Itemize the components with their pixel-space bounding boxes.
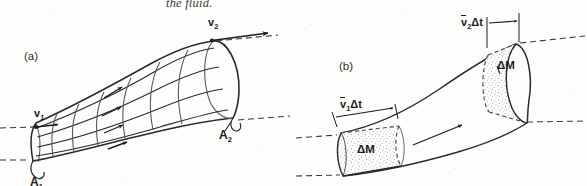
label-area-A2: A2	[219, 129, 232, 144]
label-area-A1-subscript: 1	[39, 182, 43, 186]
panel-b-graphic	[296, 13, 587, 176]
label-velocity-v1-subscript: 1	[40, 113, 44, 122]
outlet-thickness-dimension	[487, 13, 519, 48]
label-outlet-velocity-bar: v	[461, 17, 467, 28]
label-outlet-displacement: v2Δt	[461, 17, 483, 31]
label-velocity-v2: v2	[208, 17, 218, 31]
panel-b-flow-arrow	[413, 125, 462, 145]
panel-label-a: (a)	[24, 50, 38, 62]
flow-tube-figure	[0, 0, 587, 186]
label-outlet-time-interval: Δt	[471, 16, 483, 28]
outlet-cross-section-A2	[205, 41, 241, 131]
caption-fragment: the fluid.	[166, 0, 212, 11]
label-outlet-velocity-symbol: v	[461, 16, 467, 28]
label-velocity-v1: v1	[34, 108, 44, 122]
label-inlet-displacement: v1Δt	[340, 99, 362, 113]
outlet-axis-dash-lower	[238, 116, 290, 120]
label-area-A1: A1	[30, 176, 43, 186]
label-area-A1-symbol: A	[30, 175, 39, 186]
label-inlet-velocity-symbol: v	[340, 98, 346, 110]
label-velocity-v2-subscript: 2	[214, 22, 218, 31]
label-area-A2-subscript: 2	[228, 135, 232, 144]
label-inlet-velocity-bar: v	[340, 99, 346, 110]
label-inlet-mass: ΔM	[357, 144, 375, 156]
velocity-vector-v1	[34, 125, 58, 130]
label-area-A2-symbol: A	[219, 128, 228, 142]
panel-label-b: (b)	[339, 60, 353, 72]
outlet-mass-slab	[483, 44, 530, 123]
inlet-axis-dashes	[0, 127, 34, 160]
streamlines	[36, 48, 228, 156]
label-inlet-time-interval: Δt	[350, 98, 362, 110]
panel-a-graphic	[0, 33, 290, 179]
label-outlet-mass: ΔM	[497, 60, 515, 72]
